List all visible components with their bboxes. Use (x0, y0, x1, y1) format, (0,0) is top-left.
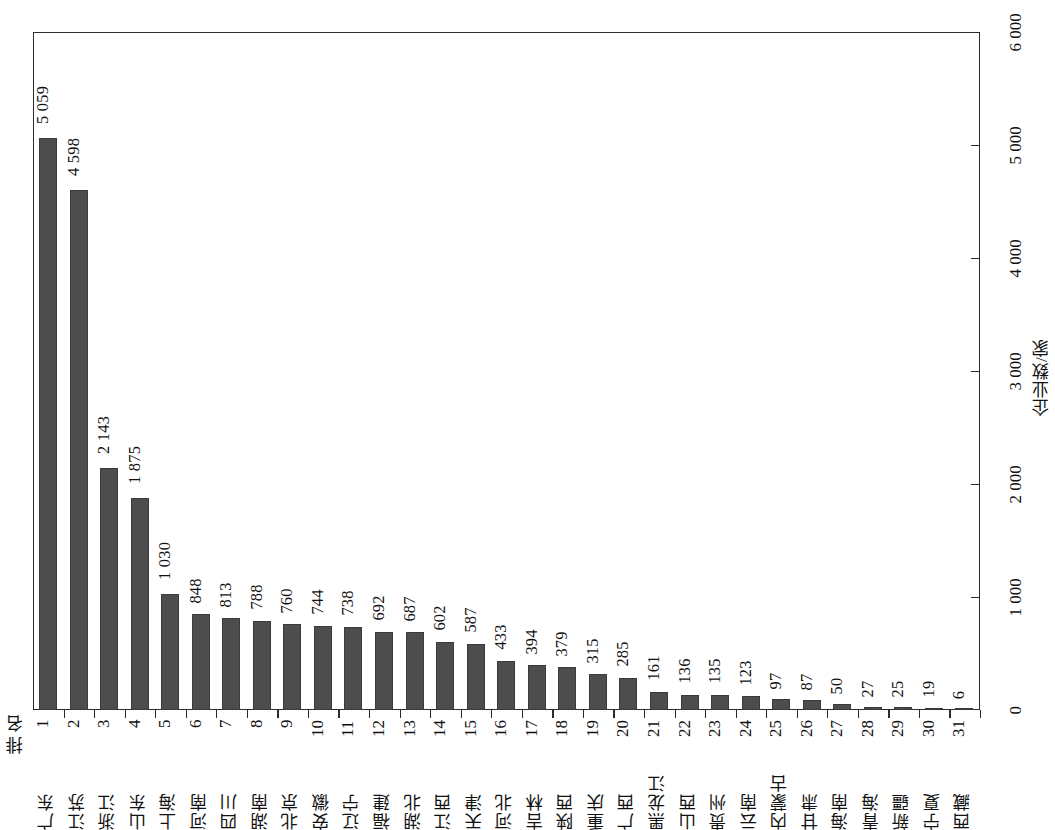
y-axis-tick (971, 371, 980, 372)
bar[interactable] (100, 468, 118, 710)
bar-slot: 379 (552, 32, 583, 710)
bar[interactable] (742, 696, 760, 710)
category-label-column: 14江西 (430, 712, 461, 830)
rank-label: 24 (736, 714, 767, 744)
bar[interactable] (436, 642, 454, 710)
bar-slot: 27 (858, 32, 889, 710)
bar[interactable] (955, 708, 973, 710)
bar[interactable] (497, 661, 515, 710)
bar[interactable] (833, 704, 851, 710)
bar[interactable] (161, 594, 179, 710)
bar[interactable] (894, 707, 912, 710)
category-label-column: 2江苏 (64, 712, 95, 830)
province-label: 内蒙古 (766, 748, 797, 830)
bar[interactable] (283, 624, 301, 710)
bar-slot: 602 (430, 32, 461, 710)
rank-label: 17 (522, 714, 553, 744)
bar[interactable] (192, 614, 210, 710)
bar-slot: 123 (736, 32, 767, 710)
bar[interactable] (925, 708, 943, 710)
bar-value-label: 788 (247, 579, 278, 616)
rank-label: 26 (797, 714, 828, 744)
y-axis-tick-label: 5 000 (1006, 115, 1026, 176)
bar-slot: 50 (827, 32, 858, 710)
category-label-column: 6河南 (186, 712, 217, 830)
bar[interactable] (619, 678, 637, 710)
bar[interactable] (344, 627, 362, 710)
bar[interactable] (314, 626, 332, 710)
rank-label: 2 (64, 714, 95, 733)
bar-value-label: 161 (644, 650, 675, 687)
bar[interactable] (864, 707, 882, 710)
bar[interactable] (375, 632, 393, 710)
category-label-column: 23贵州 (705, 712, 736, 830)
province-label: 天津 (461, 748, 492, 830)
bar[interactable] (589, 674, 607, 710)
bar-value-label: 602 (430, 600, 461, 637)
province-label: 吉林 (522, 748, 553, 830)
rank-label: 9 (277, 714, 308, 733)
bar[interactable] (558, 667, 576, 710)
y-axis-tick (971, 258, 980, 259)
bar-value-label: 123 (736, 655, 767, 692)
province-label: 山西 (675, 748, 706, 830)
bar-slot: 5 059 (33, 32, 64, 710)
bar-slot: 97 (766, 32, 797, 710)
bar[interactable] (406, 632, 424, 710)
province-label: 四川 (216, 748, 247, 830)
bar-slot: 87 (797, 32, 828, 710)
rank-label: 22 (675, 714, 706, 744)
rank-label: 3 (94, 714, 125, 733)
province-label: 重庆 (583, 748, 614, 830)
province-label: 北京 (277, 748, 308, 830)
rank-label: 25 (766, 714, 797, 744)
bar[interactable] (650, 692, 668, 710)
category-label-column: 1广东 (33, 712, 64, 830)
bar[interactable] (528, 665, 546, 710)
rank-label: 4 (125, 714, 156, 733)
bar-slot: 2 143 (94, 32, 125, 710)
bar[interactable] (803, 700, 821, 710)
bar[interactable] (681, 695, 699, 710)
category-label-column: 9北京 (277, 712, 308, 830)
bar-value-label: 687 (400, 591, 431, 628)
bar-slot: 25 (888, 32, 919, 710)
bar-value-label: 813 (216, 577, 247, 614)
province-label: 湖北 (400, 748, 431, 830)
category-label-column: 8湖南 (247, 712, 278, 830)
bar-value-label: 848 (186, 573, 217, 610)
rank-label: 12 (369, 714, 400, 744)
bar[interactable] (39, 138, 57, 710)
rank-label: 23 (705, 714, 736, 744)
bar[interactable] (222, 618, 240, 710)
bar-value-label: 738 (338, 585, 369, 622)
rank-label: 13 (400, 714, 431, 744)
bar-slot: 813 (216, 32, 247, 710)
bar-slot: 161 (644, 32, 675, 710)
province-label: 湖南 (247, 748, 278, 830)
rank-label: 1 (33, 714, 64, 733)
bar-value-label: 433 (491, 619, 522, 656)
y-axis-tick (971, 145, 980, 146)
rank-label: 30 (919, 714, 950, 744)
bar-value-label: 5 059 (33, 76, 64, 133)
bar[interactable] (131, 498, 149, 710)
bar[interactable] (70, 190, 88, 710)
bar-slot: 587 (461, 32, 492, 710)
bar[interactable] (467, 644, 485, 710)
province-label: 广西 (613, 748, 644, 830)
bar-slot: 135 (705, 32, 736, 710)
bar-value-label: 587 (461, 602, 492, 639)
bar[interactable] (772, 699, 790, 710)
bar-value-label: 6 (949, 687, 980, 703)
category-label-column: 20广西 (613, 712, 644, 830)
category-label-column: 12福建 (369, 712, 400, 830)
category-label-column: 7四川 (216, 712, 247, 830)
province-label: 上海 (155, 748, 186, 830)
bar-slot: 433 (491, 32, 522, 710)
bar[interactable] (711, 695, 729, 710)
bar-value-label: 87 (797, 669, 828, 695)
bar[interactable] (253, 621, 271, 710)
province-label: 河北 (491, 748, 522, 830)
rank-header-label: 排 名 (2, 714, 34, 754)
